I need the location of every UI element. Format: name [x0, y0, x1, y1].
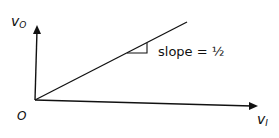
transfer-line: [35, 22, 187, 100]
y-axis-label: vO: [11, 13, 26, 30]
x-axis: [35, 100, 252, 106]
slope-annotation: slope = ½: [158, 44, 224, 59]
x-axis-arrow-icon: [249, 102, 258, 110]
y-axis-arrow-icon: [33, 25, 41, 34]
transfer-characteristic-diagram: vO O vI slope = ½: [0, 0, 279, 138]
y-axis: [35, 30, 37, 100]
origin-label: O: [17, 109, 26, 123]
x-axis-label: vI: [257, 111, 268, 128]
